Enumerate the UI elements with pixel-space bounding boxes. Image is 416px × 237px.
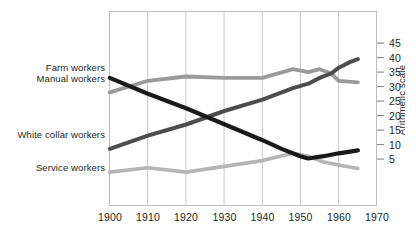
y-tick-label-45: 45 <box>389 37 401 49</box>
y-axis-title: Arithmetic scale <box>396 65 407 135</box>
x-tick-label-1950: 1950 <box>288 211 312 223</box>
series-label-service-workers: Service workers <box>36 162 105 173</box>
x-tick-label-1960: 1960 <box>327 211 351 223</box>
x-tick-label-1970: 1970 <box>365 211 389 223</box>
x-tick-label-1910: 1910 <box>136 211 160 223</box>
x-tick-label-1940: 1940 <box>250 211 274 223</box>
y-tick-label-5: 5 <box>389 153 395 165</box>
plot-frame <box>110 12 377 206</box>
y-tick-label-10: 10 <box>389 139 401 151</box>
series-label-white-collar-workers: White collar workers <box>17 129 105 140</box>
line-chart-figure: Farm workers Manual workers White collar… <box>0 0 416 237</box>
right-axis-ticks <box>377 43 384 159</box>
x-tick-label-1920: 1920 <box>174 211 198 223</box>
x-tick-label-1930: 1930 <box>212 211 236 223</box>
series-label-manual-workers: Manual workers <box>37 73 105 84</box>
chart-plot-area <box>0 0 416 237</box>
series-label-farm-workers: Farm workers <box>46 62 105 73</box>
x-tick-label-1900: 1900 <box>98 211 122 223</box>
y-tick-label-40: 40 <box>389 52 401 64</box>
